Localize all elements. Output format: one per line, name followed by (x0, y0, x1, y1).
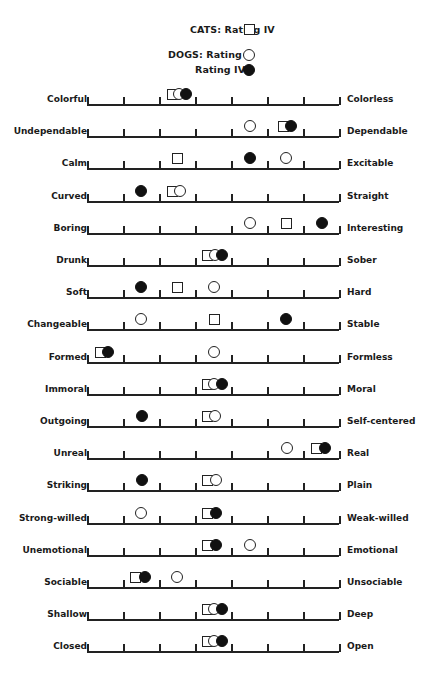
right-anchor-label: Plain (347, 480, 372, 490)
left-anchor-label: Sociable (44, 577, 87, 587)
scale-tick (339, 612, 341, 620)
scale-tick (267, 194, 269, 202)
dogs-rating-iv-filled-circle-marker-icon (216, 603, 228, 615)
scale-baseline (87, 394, 339, 396)
right-anchor-label: Open (347, 641, 374, 651)
scale-tick (195, 483, 197, 491)
scale-tick (123, 355, 125, 363)
scale-tick (159, 516, 161, 524)
scale-tick (87, 258, 89, 266)
scale-tick (303, 194, 305, 202)
scale-tick (195, 580, 197, 588)
scale-tick (123, 483, 125, 491)
scale-tick (339, 161, 341, 169)
scale-tick (267, 355, 269, 363)
scale-tick (159, 451, 161, 459)
scale-tick (159, 290, 161, 298)
scale-tick (195, 290, 197, 298)
scale-tick (123, 97, 125, 105)
scale-tick (231, 194, 233, 202)
scale-tick (195, 387, 197, 395)
scale-tick (123, 644, 125, 652)
scale-baseline (87, 426, 339, 428)
scale-tick (267, 419, 269, 427)
scale-tick (195, 516, 197, 524)
dogs-rating-iv-filled-circle-marker-icon (319, 442, 331, 454)
scale-tick (339, 194, 341, 202)
dogs-rating-iv-filled-circle-marker-icon (244, 152, 256, 164)
right-anchor-label: Colorless (347, 94, 393, 104)
left-anchor-label: Unreal (54, 448, 87, 458)
scale-tick (195, 419, 197, 427)
scale-tick (87, 612, 89, 620)
left-anchor-label: Soft (66, 287, 87, 297)
scale-tick (339, 451, 341, 459)
dogs-rating-iv-filled-circle-marker-icon (139, 571, 151, 583)
right-anchor-label: Dependable (347, 126, 408, 136)
scale-tick (303, 226, 305, 234)
scale-tick (231, 451, 233, 459)
scale-tick (339, 322, 341, 330)
scale-tick (231, 516, 233, 524)
left-anchor-label: Shallow (47, 609, 87, 619)
scale-tick (159, 129, 161, 137)
scale-tick (339, 129, 341, 137)
dogs-rating-i-open-circle-marker-icon (174, 185, 186, 197)
dogs-rating-i-open-circle-marker-icon (244, 217, 256, 229)
dogs-rating-i-open-circle-marker-icon (244, 539, 256, 551)
scale-tick (267, 161, 269, 169)
dogs-rating-i-open-circle-marker-icon (208, 281, 220, 293)
scale-baseline (87, 201, 339, 203)
dogs-rating-iv-filled-circle-marker-icon (285, 120, 297, 132)
left-anchor-label: Formed (49, 352, 87, 362)
left-anchor-label: Calm (62, 158, 87, 168)
legend-dogs-label-2: Rating IV (195, 64, 245, 75)
scale-tick (303, 644, 305, 652)
right-anchor-label: Excitable (347, 158, 393, 168)
scale-tick (267, 290, 269, 298)
scale-tick (339, 387, 341, 395)
scale-baseline (87, 458, 339, 460)
scale-tick (231, 129, 233, 137)
scale-tick (303, 387, 305, 395)
scale-tick (159, 161, 161, 169)
dogs-rating-iv-filled-circle-marker-icon (210, 507, 222, 519)
scale-tick (159, 419, 161, 427)
right-anchor-label: Unsociable (347, 577, 402, 587)
scale-tick (87, 194, 89, 202)
dogs-rating-iv-filled-circle-marker-icon (135, 281, 147, 293)
scale-tick (231, 290, 233, 298)
scale-tick (303, 451, 305, 459)
scale-tick (159, 612, 161, 620)
dogs-rating-i-open-circle-marker-icon (135, 313, 147, 325)
dogs-rating-i-open-circle-marker-icon (135, 507, 147, 519)
scale-row: ClosedOpen (0, 0, 423, 32)
scale-tick (267, 387, 269, 395)
dogs-rating-iv-filled-circle-marker-icon (316, 217, 328, 229)
dogs-rating-iv-filled-circle-marker-icon (135, 185, 147, 197)
scale-tick (231, 161, 233, 169)
scale-tick (123, 129, 125, 137)
scale-tick (339, 97, 341, 105)
left-anchor-label: Boring (54, 223, 87, 233)
scale-tick (267, 612, 269, 620)
scale-tick (87, 97, 89, 105)
scale-tick (267, 580, 269, 588)
scale-tick (303, 322, 305, 330)
left-anchor-label: Changeable (27, 319, 87, 329)
scale-tick (267, 451, 269, 459)
scale-tick (123, 322, 125, 330)
scale-tick (123, 194, 125, 202)
scale-baseline (87, 555, 339, 557)
scale-tick (339, 290, 341, 298)
scale-baseline (87, 168, 339, 170)
scale-tick (159, 644, 161, 652)
scale-tick (231, 355, 233, 363)
right-anchor-label: Sober (347, 255, 377, 265)
scale-tick (159, 355, 161, 363)
scale-baseline (87, 587, 339, 589)
scale-baseline (87, 523, 339, 525)
right-anchor-label: Weak-willed (347, 513, 409, 523)
scale-tick (123, 387, 125, 395)
dogs-rating-iv-filled-circle-marker-icon (210, 539, 222, 551)
